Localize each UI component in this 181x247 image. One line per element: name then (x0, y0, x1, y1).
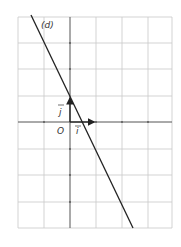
line-d-label: (d) (41, 20, 54, 30)
vector-i-label: i (76, 126, 79, 136)
coordinate-diagram: (d) O i j (0, 0, 181, 247)
axes (18, 17, 172, 228)
origin-label: O (57, 126, 64, 136)
vector-j-label: j (57, 107, 62, 117)
